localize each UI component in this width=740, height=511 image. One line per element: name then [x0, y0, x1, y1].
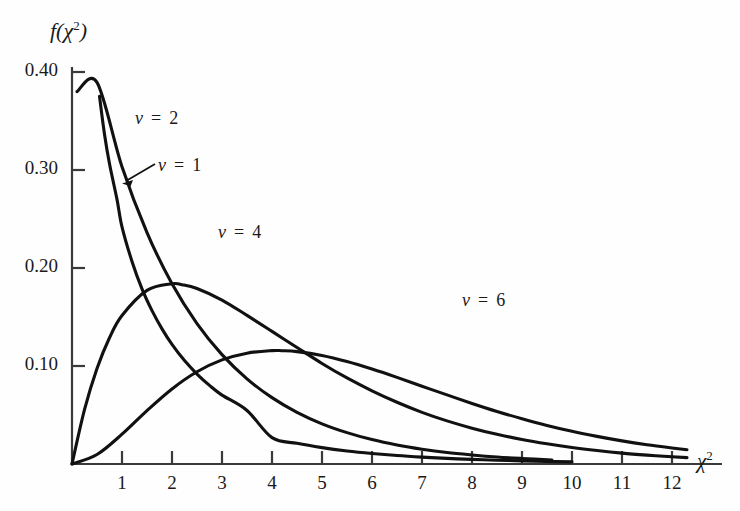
nu-value: 4	[252, 222, 261, 242]
x-axis-title-exponent: 2	[706, 448, 713, 463]
x-tick-label: 8	[452, 472, 492, 494]
chart-plot-area	[0, 0, 740, 511]
y-axis-title: f(χ2)	[50, 18, 87, 44]
y-tick-label: 0.10	[0, 353, 58, 375]
curve-nu-2	[77, 78, 552, 460]
x-tick-label: 9	[502, 472, 542, 494]
y-tick-label: 0.40	[0, 59, 58, 81]
y-axis-title-close-paren: )	[80, 18, 87, 43]
nu-1-arrow-shaft	[126, 164, 155, 181]
x-tick-label: 7	[402, 472, 442, 494]
curve-label-nu-4: ν = 4	[218, 222, 261, 243]
x-tick-label: 12	[652, 472, 692, 494]
chi-square-distribution-figure: f(χ2) χ2 0.100.200.300.40 12345678910111…	[0, 0, 740, 511]
x-axis-title: χ2	[697, 448, 713, 474]
equals-symbol: =	[226, 222, 252, 242]
equals-symbol: =	[143, 108, 169, 128]
curve-label-nu-6: ν = 6	[462, 290, 505, 311]
curves-group	[72, 78, 687, 464]
y-axis-title-base: f(χ	[50, 18, 73, 43]
x-tick-label: 6	[352, 472, 392, 494]
x-tick-label: 5	[302, 472, 342, 494]
curve-label-nu-1: ν = 1	[158, 155, 201, 176]
x-axis-title-base: χ	[697, 449, 706, 473]
curve-label-nu-2: ν = 2	[135, 108, 178, 129]
x-tick-label: 11	[602, 472, 642, 494]
x-tick-label: 10	[552, 472, 592, 494]
curve-nu-6	[72, 350, 687, 464]
nu-symbol: ν	[158, 155, 166, 175]
nu-value: 6	[496, 290, 505, 310]
nu-value: 2	[169, 108, 178, 128]
equals-symbol: =	[470, 290, 496, 310]
x-tick-label: 1	[102, 472, 142, 494]
y-tick-label: 0.30	[0, 157, 58, 179]
nu-symbol: ν	[218, 222, 226, 242]
equals-symbol: =	[166, 155, 192, 175]
x-tick-label: 2	[152, 472, 192, 494]
nu-value: 1	[192, 155, 201, 175]
nu-symbol: ν	[462, 290, 470, 310]
y-tick-label: 0.20	[0, 255, 58, 277]
x-tick-label: 4	[252, 472, 292, 494]
arrow-annotation-group	[122, 164, 155, 186]
nu-symbol: ν	[135, 108, 143, 128]
x-tick-label: 3	[202, 472, 242, 494]
